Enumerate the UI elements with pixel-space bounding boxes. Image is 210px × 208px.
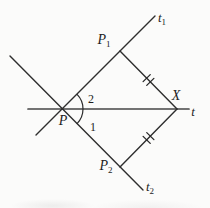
diagram-canvas: P 2 1 P1 P2 X t t1 t2 [0, 0, 210, 208]
label-p1-base: P [96, 32, 106, 47]
label-t1: t1 [158, 10, 166, 27]
geometry-figure: P 2 1 P1 P2 X t t1 t2 [0, 0, 210, 208]
label-p1-sub: 1 [106, 39, 111, 49]
label-angle-1: 1 [90, 120, 96, 134]
label-p2: P2 [98, 158, 112, 175]
label-angle-2: 2 [88, 92, 94, 106]
label-t2-sub: 2 [150, 186, 155, 196]
label-p1: P1 [96, 32, 110, 49]
label-x: X [171, 88, 181, 103]
segment-p2-x [120, 109, 177, 167]
label-p: P [58, 113, 68, 128]
line-t2 [10, 56, 143, 190]
label-t2: t2 [146, 179, 154, 196]
segment-p1-x [120, 51, 177, 109]
label-t1-sub: 1 [162, 17, 167, 27]
label-p2-sub: 2 [108, 165, 113, 175]
label-t: t [191, 104, 195, 119]
line-t1 [36, 16, 155, 135]
label-p2-base: P [98, 158, 108, 173]
